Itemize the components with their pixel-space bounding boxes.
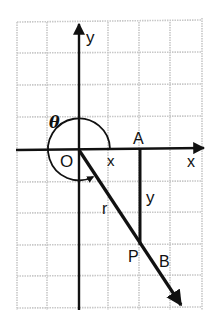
y-axis-label: y	[86, 28, 95, 47]
point-a-label: A	[133, 130, 144, 147]
segment-x-label: x	[107, 152, 115, 169]
radius-label: r	[102, 200, 108, 217]
point-p-label: P	[128, 248, 139, 265]
terminal-ray	[79, 150, 181, 305]
angle-diagram: y x θ O A x y r P B	[0, 0, 221, 315]
theta-label: θ	[49, 113, 60, 132]
segment-y-label: y	[146, 188, 155, 207]
point-b-label: B	[159, 253, 170, 270]
origin-label: O	[60, 152, 73, 171]
x-axis-label: x	[187, 153, 195, 170]
